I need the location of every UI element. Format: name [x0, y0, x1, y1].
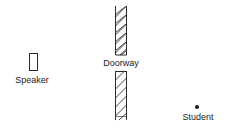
student-label: Student — [182, 112, 213, 122]
doorway-label: Doorway — [103, 58, 139, 68]
doorway-upper-wall — [116, 6, 127, 55]
student-dot — [195, 105, 199, 109]
diagram-canvas: Speaker Doorway Student — [0, 0, 227, 130]
doorway-lower-wall — [116, 71, 127, 120]
speaker-box — [30, 54, 38, 71]
speaker-label: Speaker — [15, 75, 49, 85]
